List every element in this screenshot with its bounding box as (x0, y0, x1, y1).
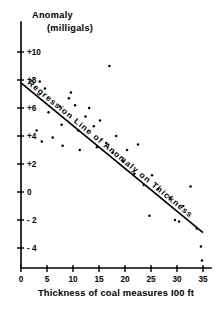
x-tick-label: 35 (198, 275, 208, 284)
data-point (77, 129, 80, 132)
data-point (74, 104, 77, 107)
data-point (196, 227, 199, 230)
data-point (174, 219, 177, 222)
data-point (35, 129, 38, 132)
x-tick-label: 0 (19, 275, 24, 284)
y-tick-label: 0 (27, 188, 32, 197)
y-tick-label: +4 (27, 132, 37, 141)
data-point (108, 65, 111, 68)
data-point (115, 135, 118, 138)
y-tick-label: - 2 (27, 216, 37, 225)
chart-title: Anomaly (32, 10, 73, 20)
data-point (189, 185, 192, 188)
x-tick-label: 5 (45, 275, 50, 284)
chart-subtitle: (milligals) (47, 23, 93, 33)
chart-canvas: Anomaly (milligals) +10+8+6+4+20- 2- 4 0… (0, 0, 224, 312)
y-tick-label: +6 (27, 104, 37, 113)
data-point (88, 107, 91, 110)
x-tick-label: 30 (172, 275, 182, 284)
data-point (126, 149, 129, 152)
y-tick-label: - 4 (27, 244, 37, 253)
data-point (70, 91, 73, 94)
data-point (79, 149, 82, 152)
data-point (84, 115, 87, 118)
data-point (201, 259, 204, 262)
data-point (200, 245, 203, 248)
regression-line-annotation: Regression Line of Anomaly on Thickness (26, 78, 196, 220)
x-tick-label: 25 (146, 275, 156, 284)
data-point (60, 124, 63, 127)
data-point (99, 119, 102, 122)
scatter-chart-figure: Anomaly (milligals) +10+8+6+4+20- 2- 4 0… (0, 0, 224, 312)
data-point (142, 184, 145, 187)
x-tick-label: 20 (120, 275, 130, 284)
regression-line (21, 83, 203, 233)
data-point (96, 146, 99, 149)
data-point (47, 111, 50, 114)
x-tick-label: 15 (94, 275, 104, 284)
data-point (41, 140, 44, 143)
x-axis-label: Thickness of coal measures I00 ft (38, 287, 194, 298)
regression-line-label: Regression Line of Anomaly on Thickness (26, 78, 196, 220)
data-point (148, 215, 151, 218)
data-point (68, 97, 71, 100)
data-point (137, 143, 140, 146)
data-point (51, 136, 54, 139)
data-point (178, 220, 181, 223)
y-tick-label: +2 (27, 160, 37, 169)
x-tick-label: 10 (68, 275, 78, 284)
data-point (61, 145, 64, 148)
y-tick-label: +10 (27, 48, 41, 57)
